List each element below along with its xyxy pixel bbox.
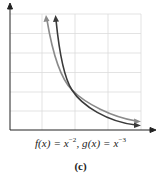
y-axis-arrow-icon [8,3,13,9]
panel-label: (c) [0,160,161,172]
g-arrow-right-icon [134,123,141,129]
g-exponent: −3 [118,136,126,144]
f-arrow-up-icon [44,15,50,22]
curve-f [44,15,142,124]
axes [8,3,157,133]
x-axis-arrow-icon [150,128,156,133]
f-label: f(x) = x [35,137,69,149]
g-arrow-up-icon [53,15,59,22]
function-caption: f(x) = x−2, g(x) = x−3 [0,136,161,149]
chart-plot [0,0,161,136]
g-label: , g(x) = x [76,137,118,149]
grid [10,14,141,130]
